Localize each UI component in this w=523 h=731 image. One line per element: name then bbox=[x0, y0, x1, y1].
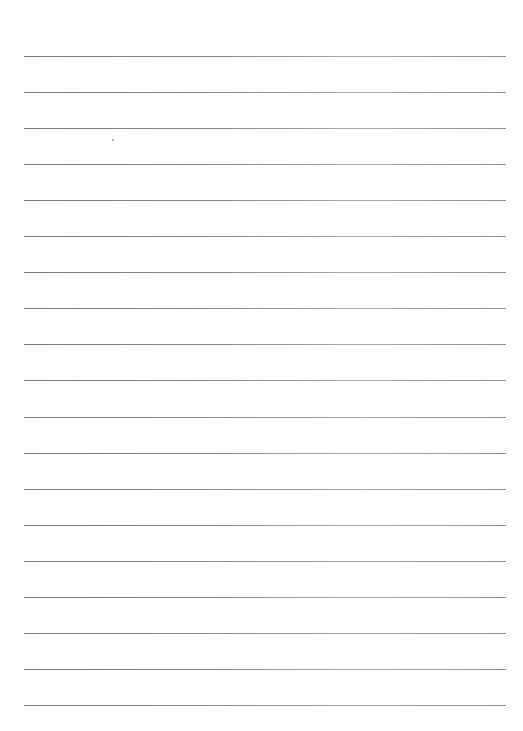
ruled-line bbox=[24, 417, 506, 418]
ruled-line bbox=[24, 525, 506, 526]
ruled-line bbox=[24, 200, 506, 201]
ruled-line bbox=[24, 669, 506, 670]
ruled-line bbox=[24, 56, 506, 57]
ruled-line bbox=[24, 128, 506, 129]
ruled-line bbox=[24, 633, 506, 634]
ruled-line bbox=[24, 561, 506, 562]
ruled-line bbox=[24, 92, 506, 93]
ruled-line bbox=[24, 344, 506, 345]
ruled-line bbox=[24, 489, 506, 490]
ruled-line bbox=[24, 164, 506, 165]
ruled-line bbox=[24, 236, 506, 237]
ruled-line bbox=[24, 308, 506, 309]
ruled-line bbox=[24, 597, 506, 598]
ruled-line bbox=[24, 705, 506, 706]
ruled-line bbox=[24, 380, 506, 381]
ruled-line bbox=[24, 453, 506, 454]
stray-mark bbox=[112, 139, 114, 141]
ruled-line bbox=[24, 272, 506, 273]
lined-page bbox=[0, 0, 523, 731]
